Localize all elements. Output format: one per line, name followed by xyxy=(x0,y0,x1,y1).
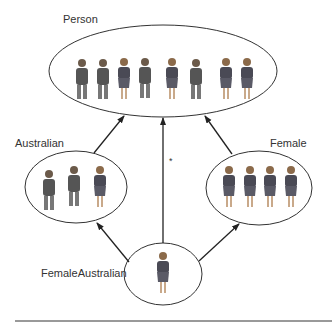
female-label: Female xyxy=(270,137,307,149)
person-figures xyxy=(76,58,253,99)
person-label: Person xyxy=(63,13,98,25)
edge-annotation: * xyxy=(169,156,173,166)
arrow-australian-to-person xyxy=(94,116,124,153)
arrow-femaleaustralian-to-female xyxy=(199,224,239,261)
australian-label: Australian xyxy=(15,137,64,149)
femaleaustralian-figures xyxy=(157,252,169,293)
arrow-femaleaustralian-to-australian xyxy=(97,223,129,262)
female-figures xyxy=(223,166,297,207)
australian-figures xyxy=(43,166,106,210)
arrow-female-to-person xyxy=(205,116,232,154)
femaleaustralian-label: FemaleAustralian xyxy=(41,267,127,279)
